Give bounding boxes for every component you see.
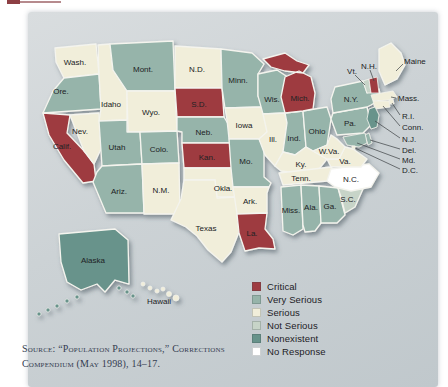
state-shape-or: [43, 74, 101, 113]
state-label-la: La.: [246, 229, 257, 238]
legend-swatch-very-serious: [252, 295, 261, 304]
leader-line-de: [370, 140, 400, 149]
figure-page: Wash.Ore.Calif.Nev.IdahoMont.Wyo.UtahCol…: [0, 0, 448, 387]
legend-label: Critical: [267, 281, 297, 292]
state-label-nh: N.H.: [361, 62, 377, 71]
state-label-al: Ala.: [304, 203, 318, 212]
state-shape-dc: [352, 146, 355, 149]
state-label-nj: N.J.: [402, 135, 416, 144]
state-label-wv: W.Va.: [319, 147, 340, 156]
island-hi: [161, 287, 165, 291]
state-label-ut: Utah: [109, 143, 126, 152]
source-citation: Source: “Population Projections,” Correc…: [22, 341, 230, 371]
island-hi: [173, 295, 179, 301]
island-ak: [131, 294, 135, 298]
state-shape-me: [379, 43, 405, 85]
state-label-dc: D.C.: [402, 166, 418, 175]
state-label-ny: N.Y.: [344, 95, 359, 104]
state-label-nc: N.C.: [343, 175, 359, 184]
leader-line-ri: [392, 103, 400, 115]
legend-swatch-nonexistent: [252, 334, 261, 343]
state-label-ri: R.I.: [402, 112, 414, 121]
state-label-mn: Minn.: [228, 76, 248, 85]
island-ak: [125, 290, 129, 294]
legend-swatch-critical: [252, 282, 261, 291]
state-label-or: Ore.: [53, 87, 69, 96]
legend-item-nonexistent: Nonexistent: [252, 332, 326, 344]
us-map: Wash.Ore.Calif.Nev.IdahoMont.Wyo.UtahCol…: [0, 0, 448, 387]
state-label-il: Ill.: [269, 135, 277, 144]
legend-swatch-not-serious: [252, 321, 261, 330]
state-label-va: Va.: [339, 157, 350, 166]
state-label-nm: N.M.: [153, 186, 170, 195]
legend-label: No Response: [267, 346, 326, 357]
state-label-me: Maine: [404, 57, 426, 66]
state-label-pa: Pa.: [344, 119, 356, 128]
state-label-wi: Wis.: [264, 95, 280, 104]
state-label-ne: Neb.: [196, 128, 213, 137]
legend: CriticalVery SeriousSeriousNot SeriousNo…: [252, 280, 326, 358]
state-label-ks: Kan.: [199, 153, 215, 162]
island-ak: [46, 308, 50, 312]
state-label-sd: S.D.: [191, 100, 207, 109]
island-ak: [55, 304, 59, 308]
state-label-oh: Ohio: [309, 127, 326, 136]
island-hi: [167, 292, 172, 297]
state-label-ct: Conn.: [402, 123, 423, 132]
state-label-co: Colo.: [150, 145, 169, 154]
state-label-ia: Iowa: [236, 121, 253, 130]
state-shape-md: [343, 133, 367, 147]
state-label-in: Ind.: [287, 134, 300, 143]
state-label-hi: Hawaii: [147, 297, 171, 306]
state-label-nv: Nev.: [72, 127, 88, 136]
state-label-ar: Ark.: [243, 197, 257, 206]
island-hi: [148, 286, 152, 290]
state-label-sc: S.C.: [340, 195, 356, 204]
state-label-mt: Mont.: [133, 65, 153, 74]
state-label-mi: Mich.: [290, 94, 309, 103]
state-label-md: Md.: [402, 156, 415, 165]
state-label-de: Del.: [402, 146, 416, 155]
state-label-wa: Wash.: [64, 58, 86, 67]
island-ak: [75, 295, 79, 299]
legend-label: Serious: [267, 307, 300, 318]
state-label-ga: Ga.: [324, 202, 337, 211]
island-ak: [65, 299, 69, 303]
state-label-ak: Alaska: [81, 256, 106, 265]
leader-line-nj: [375, 121, 400, 138]
state-label-ok: Okla.: [214, 184, 233, 193]
island-hi: [155, 289, 159, 293]
leader-line-ct: [383, 106, 400, 126]
legend-label: Not Serious: [267, 320, 318, 331]
legend-item-critical: Critical: [252, 280, 326, 292]
state-label-vt: Vt.: [347, 67, 357, 76]
state-label-az: Ariz.: [111, 187, 127, 196]
legend-item-no-response: No Response: [252, 345, 326, 357]
legend-swatch-no-response: [252, 347, 261, 356]
legend-item-serious: Serious: [252, 306, 326, 318]
state-label-ma: Mass.: [398, 94, 419, 103]
legend-label: Nonexistent: [267, 333, 318, 344]
legend-item-not-serious: Not Serious: [252, 319, 326, 331]
state-label-wy: Wyo.: [142, 108, 160, 117]
legend-item-very-serious: Very Serious: [252, 293, 326, 305]
state-shape-in: [283, 111, 306, 155]
state-label-mo: Mo.: [239, 157, 252, 166]
legend-label: Very Serious: [267, 294, 322, 305]
state-label-ms: Miss.: [282, 206, 301, 215]
island-ak: [37, 312, 41, 316]
island-ak: [117, 286, 121, 290]
state-label-tx: Texas: [196, 224, 217, 233]
legend-swatch-serious: [252, 308, 261, 317]
state-label-ca: Calif.: [53, 142, 71, 151]
state-label-nd: N.D.: [189, 65, 205, 74]
state-label-id: Idaho: [101, 100, 122, 109]
state-label-tn: Tenn.: [291, 174, 311, 183]
state-label-ky: Ky.: [296, 160, 307, 169]
state-shape-nh: [369, 77, 379, 93]
island-hi: [141, 282, 145, 286]
